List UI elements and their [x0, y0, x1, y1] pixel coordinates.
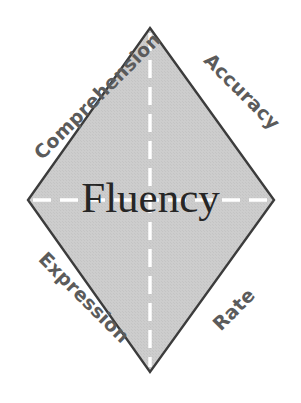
center-concept-label: Fluency — [0, 176, 301, 219]
diagram-canvas: Comprehension Accuracy Expression Rate F… — [0, 0, 301, 403]
